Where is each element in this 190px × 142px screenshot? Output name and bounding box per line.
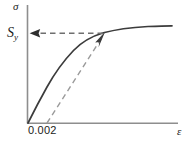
offset-strain-label: 0.002 xyxy=(28,125,57,136)
yield-level-arrowhead xyxy=(30,29,41,38)
y-axis-label-sigma: σ xyxy=(13,1,18,12)
offset-dashed-line xyxy=(47,39,101,123)
yield-strength-symbol: S xyxy=(7,25,14,40)
figure-canvas xyxy=(0,0,190,142)
stress-strain-figure: σ ε Sy 0.002 xyxy=(0,0,190,142)
yield-strength-label: Sy xyxy=(7,26,18,42)
yield-strength-subscript: y xyxy=(14,32,18,42)
x-axis-label-epsilon: ε xyxy=(177,126,181,137)
